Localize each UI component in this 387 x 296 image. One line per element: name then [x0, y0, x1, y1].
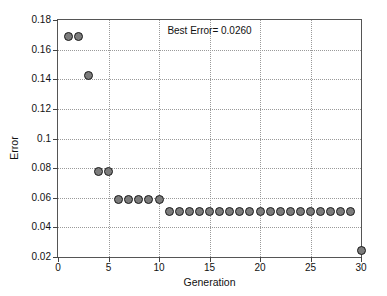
plot-area: Best Error= 0.0260 0.020.040.060.080.10.… [57, 19, 362, 258]
x-axis-tick-label: 10 [153, 263, 164, 273]
x-axis-title: Generation [57, 277, 362, 288]
error-vs-generation-chart: Best Error= 0.0260 0.020.040.060.080.10.… [0, 0, 387, 296]
y-axis-tick [53, 20, 58, 21]
best-error-annotation: Best Error= 0.0260 [167, 24, 251, 35]
y-axis-tick [53, 79, 58, 80]
y-axis-tick-label: 0.08 [32, 163, 51, 173]
x-axis-tick-label: 5 [106, 263, 112, 273]
y-axis-tick-label: 0.02 [32, 252, 51, 262]
y-axis-tick [53, 168, 58, 169]
x-axis-tick-label: 20 [254, 263, 265, 273]
y-axis-tick-label: 0.18 [32, 15, 51, 25]
x-axis-tick-label: 30 [355, 263, 366, 273]
y-axis-tick [53, 50, 58, 51]
y-axis-tick-label: 0.14 [32, 74, 51, 84]
y-axis-tick [53, 139, 58, 140]
annotations-layer: Best Error= 0.0260 [58, 20, 361, 257]
y-axis-tick-label: 0.1 [37, 134, 51, 144]
y-axis-tick-label: 0.12 [32, 104, 51, 114]
y-axis-tick [53, 198, 58, 199]
y-axis-tick-label: 0.16 [32, 45, 51, 55]
x-axis-tick-label: 0 [55, 263, 61, 273]
y-axis-title: Error [9, 136, 20, 159]
y-axis-tick [53, 109, 58, 110]
x-axis-tick-label: 15 [204, 263, 215, 273]
y-axis-tick [53, 227, 58, 228]
y-axis-tick-label: 0.04 [32, 222, 51, 232]
y-axis-tick-label: 0.06 [32, 193, 51, 203]
x-axis-tick-label: 25 [305, 263, 316, 273]
